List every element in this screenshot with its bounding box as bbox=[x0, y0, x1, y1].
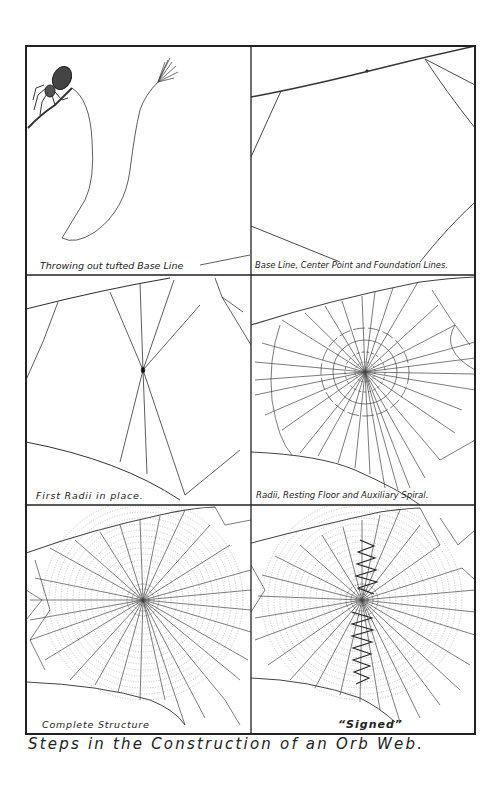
panel-6-drawing bbox=[251, 500, 475, 722]
panel-2-drawing bbox=[251, 46, 475, 262]
tuft-icon bbox=[158, 58, 178, 82]
panel-5-caption: Complete Structure bbox=[42, 719, 150, 730]
panel-4-caption: Radii, Resting Floor and Auxiliary Spira… bbox=[256, 490, 428, 500]
orb-web-plate bbox=[0, 0, 504, 785]
panel-3-caption: First Radii in place. bbox=[36, 490, 144, 501]
center-point-icon bbox=[141, 367, 145, 373]
panel-2-caption: Base Line, Center Point and Foundation L… bbox=[255, 260, 448, 270]
panel-3-drawing bbox=[26, 278, 251, 500]
radii bbox=[110, 280, 240, 495]
panel-1-drawing bbox=[28, 58, 250, 265]
panel-5-drawing bbox=[26, 500, 251, 725]
spider-icon bbox=[33, 63, 75, 115]
figure-title: Steps in the Construction of an Orb Web. bbox=[28, 735, 424, 753]
panel-1-caption: Throwing out tufted Base Line bbox=[40, 260, 183, 271]
panel-4-drawing bbox=[251, 277, 475, 505]
panel-6-caption: “Signed” bbox=[338, 718, 403, 731]
